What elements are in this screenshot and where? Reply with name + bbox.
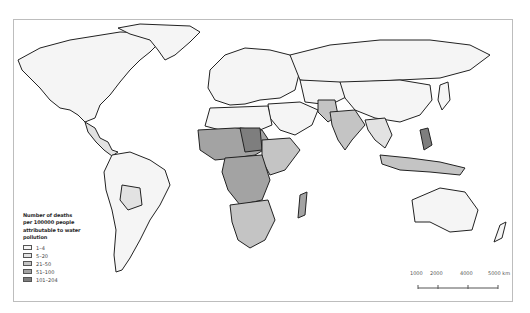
scale-label: 4000 — [460, 270, 473, 276]
region-central-africa — [222, 155, 270, 205]
region-southern-africa — [230, 200, 275, 248]
legend-item: 5–20 — [23, 252, 143, 260]
legend-item: 51–100 — [23, 268, 143, 276]
legend-swatch — [23, 277, 32, 282]
region-indonesia — [380, 155, 465, 175]
region-japan — [438, 82, 450, 110]
scale-bar: 1000 2000 4000 5000 km — [410, 270, 520, 290]
scale-label: 1000 — [410, 270, 423, 276]
scale-labels: 1000 2000 4000 5000 km — [410, 270, 520, 278]
legend-swatch — [23, 261, 32, 266]
scale-ruler — [410, 283, 520, 293]
legend-item: 21–50 — [23, 260, 143, 268]
region-europe — [208, 48, 300, 105]
region-southeast-asia — [365, 118, 392, 148]
region-australia — [412, 188, 478, 232]
legend-item: 101–204 — [23, 276, 143, 284]
legend-title-line: Number of deaths — [23, 212, 143, 219]
region-central-america — [85, 122, 118, 156]
region-middle-east — [268, 102, 318, 135]
region-north-america — [18, 32, 160, 122]
legend-swatch — [23, 269, 32, 274]
region-new-zealand — [494, 222, 506, 242]
region-east-africa — [262, 138, 300, 175]
region-philippines — [420, 128, 432, 150]
map-legend: Number of deaths per 100000 people attri… — [23, 212, 143, 284]
legend-label: 51–100 — [36, 269, 54, 275]
legend-title-line: attributable to water — [23, 227, 143, 234]
legend-title-line: per 100000 people — [23, 219, 143, 226]
legend-swatch — [23, 253, 32, 258]
legend-label: 21–50 — [36, 261, 51, 267]
legend-title-line: pollution — [23, 234, 143, 241]
region-india — [330, 110, 365, 150]
legend-label: 5–20 — [36, 253, 48, 259]
legend-swatch — [23, 245, 32, 250]
legend-title: Number of deaths per 100000 people attri… — [23, 212, 143, 242]
scale-label: 2000 — [430, 270, 443, 276]
legend-label: 1–4 — [36, 245, 45, 251]
region-north-africa — [205, 106, 272, 130]
scale-label: 5000 km — [488, 270, 510, 276]
legend-items: 1–4 5–20 21–50 51–100 101–204 — [23, 244, 143, 284]
legend-label: 101–204 — [36, 277, 58, 283]
legend-item: 1–4 — [23, 244, 143, 252]
region-russia — [290, 40, 490, 85]
region-madagascar — [298, 192, 307, 218]
